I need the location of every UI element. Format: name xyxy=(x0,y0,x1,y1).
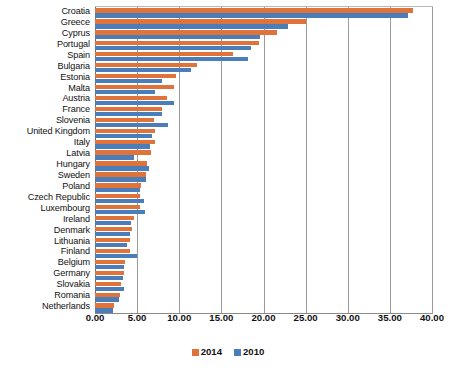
bar-2014 xyxy=(95,96,167,100)
category-label: Hungary xyxy=(56,159,90,170)
bar-2014 xyxy=(95,150,151,154)
category-label: Denmark xyxy=(54,225,90,236)
category-label: Netherlands xyxy=(42,301,90,312)
category-label: Austria xyxy=(62,93,90,104)
chart-legend: 20142010 xyxy=(0,346,456,357)
category-label: Luxembourg xyxy=(40,203,90,214)
plot-wrapper: CroatiaGreeceCyprusPortugalSpainBulgaria… xyxy=(0,6,456,318)
x-axis-tick-labels: 0.005.0010.0015.0020.0025.0030.0035.0040… xyxy=(0,312,456,330)
bar-group xyxy=(95,204,432,215)
bar-2010 xyxy=(95,134,152,138)
category-label: Spain xyxy=(67,50,90,61)
bar-2014 xyxy=(95,140,155,144)
bar-2014 xyxy=(95,63,197,67)
bar-2014 xyxy=(95,8,413,12)
x-axis-tick-label: 10.00 xyxy=(167,312,191,323)
x-axis-tick-label: 5.00 xyxy=(128,312,147,323)
bar-2014 xyxy=(95,129,155,133)
bar-2014 xyxy=(95,194,140,198)
bar-2014 xyxy=(95,260,125,264)
category-label: Germany xyxy=(53,268,90,279)
bar-2010 xyxy=(95,232,130,236)
x-axis-tick-label: 30.00 xyxy=(336,312,360,323)
bar-group xyxy=(95,291,432,302)
bar-2014 xyxy=(95,238,130,242)
bar-group xyxy=(95,105,432,116)
bar-group xyxy=(95,160,432,171)
plot-area xyxy=(95,6,433,314)
bar-group xyxy=(95,226,432,237)
bar-group xyxy=(95,247,432,258)
bar-2014 xyxy=(95,52,233,56)
category-label: Estonia xyxy=(60,72,90,83)
bar-2014 xyxy=(95,227,132,231)
bar-group xyxy=(95,40,432,51)
bar-group xyxy=(95,51,432,62)
bar-2014 xyxy=(95,249,130,253)
bar-group xyxy=(95,280,432,291)
bar-2010 xyxy=(95,35,260,39)
legend-label: 2010 xyxy=(243,346,264,357)
bar-group xyxy=(95,116,432,127)
bar-2014 xyxy=(95,19,306,23)
category-label: Cyprus xyxy=(62,28,90,39)
x-axis-tick-label: 20.00 xyxy=(251,312,275,323)
category-label: Croatia xyxy=(61,6,90,17)
bar-chart: CroatiaGreeceCyprusPortugalSpainBulgaria… xyxy=(0,0,456,376)
x-axis-tick-label: 40.00 xyxy=(420,312,444,323)
bar-2010 xyxy=(95,57,248,61)
bar-2014 xyxy=(95,172,146,176)
bar-group xyxy=(95,84,432,95)
category-label: Malta xyxy=(68,83,90,94)
bar-2014 xyxy=(95,41,259,45)
legend-item-2014[interactable]: 2014 xyxy=(192,346,222,357)
bar-group xyxy=(95,182,432,193)
category-label: Lithuania xyxy=(54,236,90,247)
gridline xyxy=(432,7,433,313)
bar-group xyxy=(95,73,432,84)
bar-2010 xyxy=(95,287,124,291)
bar-2010 xyxy=(95,112,162,116)
bar-2014 xyxy=(95,118,154,122)
bar-2014 xyxy=(95,282,121,286)
bar-2014 xyxy=(95,183,141,187)
legend-item-2010[interactable]: 2010 xyxy=(234,346,264,357)
bar-group xyxy=(95,62,432,73)
x-axis-tick-label: 15.00 xyxy=(209,312,233,323)
category-label: France xyxy=(62,104,90,115)
bar-group xyxy=(95,258,432,269)
bar-group xyxy=(95,193,432,204)
bar-2014 xyxy=(95,205,140,209)
category-label: Czech Republic xyxy=(28,192,90,203)
legend-swatch-icon xyxy=(192,349,199,356)
category-label: Sweden xyxy=(58,170,90,181)
bar-group xyxy=(95,127,432,138)
bar-group xyxy=(95,94,432,105)
category-label: Italy xyxy=(74,137,90,148)
bar-2010 xyxy=(95,155,134,159)
category-label: Finland xyxy=(61,246,90,257)
bar-2014 xyxy=(95,161,147,165)
bar-2014 xyxy=(95,271,124,275)
bar-group xyxy=(95,29,432,40)
category-label: Slovakia xyxy=(56,279,90,290)
bar-group xyxy=(95,149,432,160)
bar-2014 xyxy=(95,74,176,78)
bar-2014 xyxy=(95,107,162,111)
category-label: Ireland xyxy=(63,214,90,225)
bar-2014 xyxy=(95,85,174,89)
bar-group xyxy=(95,171,432,182)
bar-group xyxy=(95,269,432,280)
x-axis-tick-label: 25.00 xyxy=(294,312,318,323)
category-label: Poland xyxy=(62,181,90,192)
bar-group xyxy=(95,7,432,18)
category-label: Greece xyxy=(61,17,90,28)
bar-2010 xyxy=(95,79,162,83)
bar-group xyxy=(95,215,432,226)
bar-2014 xyxy=(95,30,277,34)
legend-swatch-icon xyxy=(234,349,241,356)
category-label: United Kingdom xyxy=(27,126,90,137)
bar-2010 xyxy=(95,210,145,214)
x-axis-tick-label: 35.00 xyxy=(378,312,402,323)
category-label: Latvia xyxy=(66,148,90,159)
